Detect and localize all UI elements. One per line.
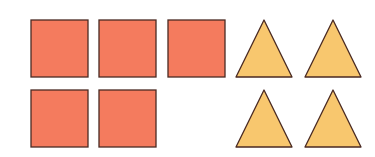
square-shape-5 bbox=[99, 90, 156, 147]
square-shape-4 bbox=[31, 90, 88, 147]
square-shape-1 bbox=[31, 20, 88, 77]
triangle-shape-2 bbox=[305, 20, 361, 77]
square-shape-3 bbox=[168, 20, 225, 77]
triangle-shape-1 bbox=[236, 20, 292, 77]
square-shape-2 bbox=[99, 20, 156, 77]
triangle-shape-4 bbox=[305, 90, 361, 147]
shapes-diagram bbox=[0, 0, 375, 157]
triangle-shape-3 bbox=[236, 90, 292, 147]
